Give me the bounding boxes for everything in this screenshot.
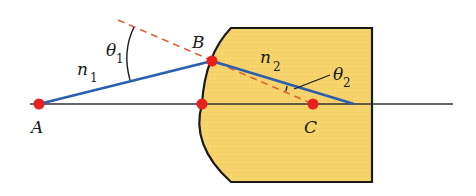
diagram-svg: A B C n 1 n 2 θ 1 θ 2 [0, 0, 476, 196]
label-n2-subscript: 2 [273, 60, 281, 74]
point-vertex [197, 99, 208, 110]
label-c: C [304, 117, 317, 137]
theta1-arc [127, 27, 134, 80]
label-theta2-subscript: 2 [343, 76, 351, 90]
label-n1: n [77, 59, 88, 79]
point-c [308, 99, 319, 110]
label-a: A [29, 117, 43, 137]
refraction-diagram: A B C n 1 n 2 θ 1 θ 2 [0, 0, 476, 196]
label-n1-subscript: 1 [90, 71, 98, 85]
lens-body [199, 28, 372, 182]
point-a [34, 99, 45, 110]
label-theta1: θ [106, 40, 116, 60]
label-theta2: θ [333, 64, 343, 84]
incident-ray [39, 61, 212, 104]
point-b [207, 56, 218, 67]
label-b: B [191, 32, 205, 52]
label-theta1-subscript: 1 [116, 52, 124, 66]
label-n2: n [260, 47, 271, 67]
